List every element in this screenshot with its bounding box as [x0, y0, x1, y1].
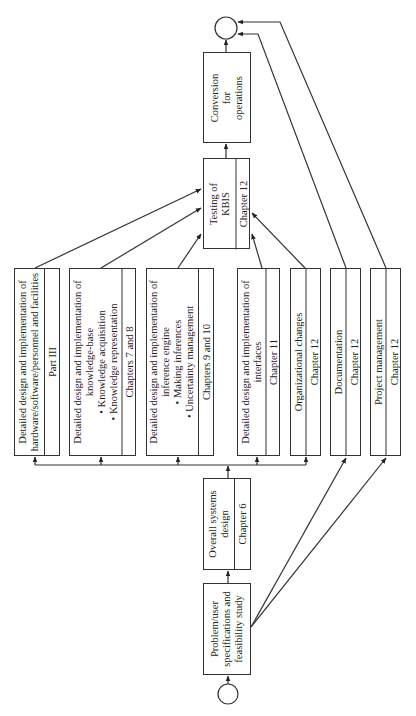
testing-box: Testing of KBIS Chapter 12	[203, 158, 250, 249]
kb-ref: Chapters 7 and 8	[121, 268, 136, 456]
documentation-box: Documentation Chapter 12	[330, 268, 361, 456]
conversion-box: Conversion for operations	[203, 52, 251, 143]
testing-title: Testing of KBIS	[203, 158, 235, 249]
hardware-ref: Part III	[44, 268, 60, 456]
interfaces-title: Detailed design and implementation of in…	[237, 268, 265, 456]
testing-ref: Chapter 12	[235, 158, 250, 249]
knowledge-base-box: Detailed design and implementation of kn…	[69, 268, 136, 456]
overall-design-box: Overall systems design Chapter 6	[203, 478, 251, 570]
org-title: Organizational changes	[290, 268, 305, 456]
inference-engine-box: Detailed design and implementation of in…	[146, 268, 214, 456]
overall-ref: Chapter 6	[234, 478, 251, 570]
inference-bullet: • Making inferences	[172, 320, 184, 405]
interfaces-ref: Chapter 11	[265, 268, 280, 456]
inference-title: Detailed design and implementation of in…	[148, 268, 172, 456]
inference-bullet: • Uncertainty management	[184, 306, 196, 418]
kb-bullet: • Knowledge representation	[107, 304, 119, 421]
project-management-box: Project management Chapter 12	[370, 268, 401, 456]
conversion-title: Conversion for operations	[203, 52, 251, 143]
pm-title: Project management	[370, 268, 385, 456]
problem-title: Problem/user specifications and feasibil…	[203, 583, 251, 675]
interfaces-box: Detailed design and implementation of in…	[237, 268, 280, 456]
docs-ref: Chapter 12	[345, 268, 361, 456]
docs-title: Documentation	[330, 268, 345, 456]
pm-ref: Chapter 12	[385, 268, 401, 456]
org-changes-box: Organizational changes Chapter 12	[290, 268, 321, 456]
kb-bullet: • Knowledge acquisition	[95, 310, 107, 413]
org-ref: Chapter 12	[305, 268, 321, 456]
start-circle	[218, 684, 238, 704]
kb-title: Detailed design and implementation of kn…	[71, 268, 95, 456]
hardware-title: Detailed design and implementation of ha…	[14, 268, 44, 456]
overall-title: Overall systems design	[203, 478, 234, 570]
inference-ref: Chapters 9 and 10	[198, 268, 214, 456]
problem-box: Problem/user specifications and feasibil…	[203, 583, 251, 675]
end-circle	[215, 17, 237, 39]
hardware-box: Detailed design and implementation of ha…	[14, 268, 60, 456]
